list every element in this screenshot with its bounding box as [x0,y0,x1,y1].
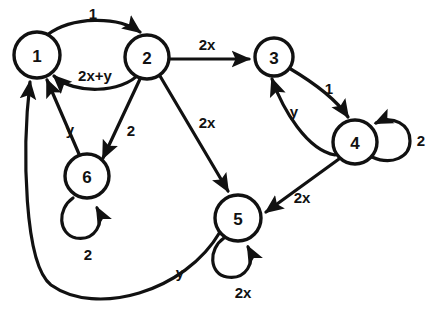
node-1[interactable]: 1 [14,32,60,78]
edge-4-to-5: 2x [266,159,339,212]
self-loop-5-path [213,238,251,277]
edge-2-to-1-label: 2x+y [78,67,112,84]
edge-3-to-4-label: 1 [325,80,333,97]
node-2-label: 2 [142,49,151,68]
edge-2-to-3: 2x [170,36,249,60]
edge-2-to-6-path [103,79,140,158]
state-transition-diagram: 1 2x+y 2x 1 y 2x 2x [0,0,431,321]
self-loop-6-label: 2 [84,246,92,263]
self-loop-4-label: 2 [417,132,425,149]
node-5[interactable]: 5 [215,195,261,241]
edge-2-to-3-label: 2x [199,36,216,53]
edge-2-to-1: 2x+y [54,67,139,90]
node-6-label: 6 [82,168,91,187]
edge-2-to-6-label: 2 [127,122,135,139]
edge-6-to-1-path [47,80,79,154]
node-6[interactable]: 6 [65,154,109,198]
edge-6-to-1: y [47,80,79,154]
node-4[interactable]: 4 [333,120,377,164]
edge-2-to-5-path [160,76,228,191]
graph-canvas: 1 2x+y 2x 1 y 2x 2x [0,0,431,321]
edge-1-to-2: 1 [47,5,140,36]
self-loop-4: 2 [372,120,425,161]
node-3[interactable]: 3 [255,38,293,76]
self-loop-5: 2x [213,238,252,301]
edge-6-to-1-label: y [66,121,75,138]
node-5-label: 5 [233,210,242,229]
edge-1-to-2-path [47,20,140,35]
node-4-label: 4 [350,134,360,153]
self-loop-6-path [62,198,100,238]
edge-2-to-5-label: 2x [199,114,216,131]
self-loop-5-label: 2x [235,284,252,301]
self-loop-6: 2 [62,198,100,263]
edge-5-to-1-label: y [176,264,185,281]
edge-2-to-5: 2x [160,76,228,191]
node-3-label: 3 [269,49,278,68]
edge-1-to-2-label: 1 [89,5,97,22]
edge-2-to-6: 2 [103,79,140,158]
node-2[interactable]: 2 [125,35,169,79]
edge-4-to-5-label: 2x [294,189,311,206]
node-1-label: 1 [32,47,41,66]
edge-4-to-3-label: y [290,103,299,120]
